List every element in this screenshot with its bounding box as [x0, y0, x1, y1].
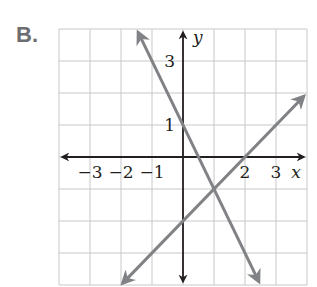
x-tick-label: −2 [108, 162, 133, 182]
x-tick-label: 3 [271, 162, 282, 182]
coordinate-graph: −3−2−12331xy [0, 0, 317, 287]
x-tick-label: −3 [77, 162, 102, 182]
y-tick-label: 3 [164, 51, 175, 71]
y-axis-label: y [192, 27, 203, 47]
x-tick-label: 2 [240, 162, 251, 182]
y-tick-label: 1 [164, 115, 175, 135]
x-tick-label: −1 [139, 162, 164, 182]
increasing-line [123, 96, 304, 283]
tick-labels: −3−2−12331xy [77, 27, 301, 182]
x-axis-label: x [291, 162, 301, 182]
axes [62, 32, 304, 282]
